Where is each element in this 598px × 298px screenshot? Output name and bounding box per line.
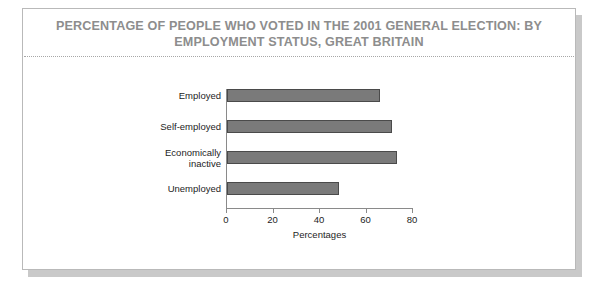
bar-category-label: Employed — [71, 90, 221, 101]
title-divider — [24, 56, 574, 57]
bar — [227, 151, 397, 164]
bar — [227, 89, 380, 102]
x-tick-mark — [319, 209, 320, 213]
x-tick-mark — [366, 209, 367, 213]
x-tick-mark — [226, 209, 227, 213]
bar-category-label: Self-employed — [71, 121, 221, 132]
x-axis-title: Percentages — [226, 229, 413, 240]
bar-category-label: Economically inactive — [71, 147, 221, 169]
bar — [227, 120, 392, 133]
x-tick-label: 60 — [346, 214, 386, 225]
x-tick-label: 20 — [253, 214, 293, 225]
x-tick-label: 0 — [206, 214, 246, 225]
bar-category-label: Unemployed — [71, 183, 221, 194]
x-tick-mark — [273, 209, 274, 213]
x-tick-mark — [412, 209, 413, 213]
bar — [227, 182, 339, 195]
chart-title: PERCENTAGE OF PEOPLE WHO VOTED IN THE 20… — [23, 18, 575, 50]
x-tick-label: 40 — [299, 214, 339, 225]
x-tick-label: 80 — [392, 214, 432, 225]
plot-area: EmployedSelf-employedEconomically inacti… — [23, 63, 577, 269]
figure-card: PERCENTAGE OF PEOPLE WHO VOTED IN THE 20… — [22, 8, 576, 270]
